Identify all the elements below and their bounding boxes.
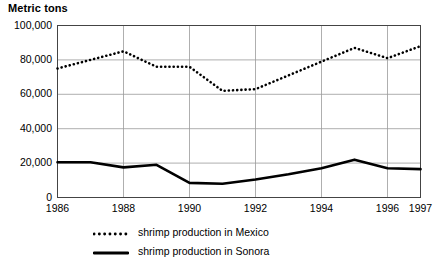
x-tick-label: 1990	[167, 202, 213, 214]
chart-container: Metric tons 020,00040,00060,00080,000100…	[0, 0, 443, 277]
y-tick-label: 40,000	[0, 122, 52, 134]
x-tick-label: 1992	[233, 202, 279, 214]
x-tick-label: 1986	[35, 202, 81, 214]
legend-item: shrimp production in Sonora	[93, 241, 393, 260]
x-tick-label: 1994	[299, 202, 345, 214]
y-tick-label: 20,000	[0, 156, 52, 168]
legend-item: shrimp production in Mexico	[93, 222, 393, 241]
chart-legend: shrimp production in Mexicoshrimp produc…	[93, 222, 393, 260]
legend-dotted-line-icon	[93, 226, 129, 238]
legend-label: shrimp production in Mexico	[138, 226, 269, 238]
x-tick-label: 1988	[101, 202, 147, 214]
legend-solid-line-icon	[93, 245, 129, 257]
x-tick-label: 1997	[398, 202, 443, 214]
legend-label: shrimp production in Sonora	[138, 245, 269, 257]
y-tick-label: 100,000	[0, 19, 52, 31]
series-line-mexico	[58, 46, 421, 91]
y-tick-label: 80,000	[0, 53, 52, 65]
y-tick-label: 60,000	[0, 87, 52, 99]
